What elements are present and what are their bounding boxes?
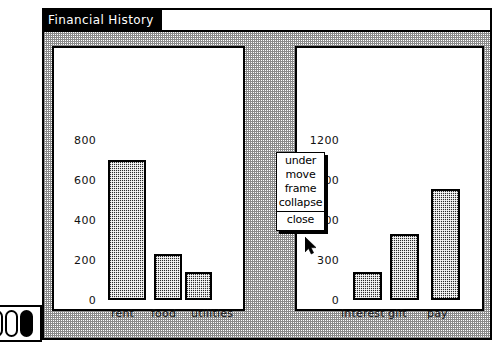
dock-pill-1[interactable] bbox=[0, 310, 3, 337]
mouse-cursor-arrow-icon bbox=[305, 237, 317, 255]
chart-panel-expenses[interactable]: 0200400600800rentfoodutilities bbox=[52, 46, 245, 311]
y-axis-tick-label: 200 bbox=[66, 254, 96, 267]
y-axis-tick-label: 800 bbox=[66, 134, 96, 147]
screen: Financial History 0200400600800rentfoodu… bbox=[0, 0, 500, 351]
taskbar-dock[interactable] bbox=[0, 305, 42, 342]
popup-menu-item-move[interactable]: move bbox=[277, 168, 324, 182]
popup-menu-item-collapse[interactable]: collapse bbox=[277, 196, 324, 210]
dock-pill-3[interactable] bbox=[20, 310, 33, 337]
y-axis-tick-label: 600 bbox=[66, 174, 96, 187]
bar-rent[interactable] bbox=[108, 160, 146, 300]
y-axis-tick-label: 300 bbox=[305, 254, 339, 267]
bar-utilities[interactable] bbox=[185, 272, 212, 300]
y-axis-tick-label: 1200 bbox=[305, 134, 339, 147]
bar-food[interactable] bbox=[154, 254, 182, 300]
financial-history-window: Financial History 0200400600800rentfoodu… bbox=[42, 8, 492, 340]
dock-pill-2[interactable] bbox=[5, 310, 18, 337]
popup-menu[interactable]: under move frame collapse close bbox=[276, 152, 325, 231]
popup-menu-separator bbox=[277, 211, 324, 212]
popup-menu-item-frame[interactable]: frame bbox=[277, 182, 324, 196]
window-title-tab[interactable]: Financial History bbox=[44, 10, 162, 30]
bar-gift[interactable] bbox=[390, 234, 419, 300]
window-body: 0200400600800rentfoodutilities 030060090… bbox=[44, 32, 490, 338]
popup-menu-item-under[interactable]: under bbox=[277, 154, 324, 168]
window-titlebar[interactable]: Financial History bbox=[44, 10, 490, 32]
bar-interest[interactable] bbox=[353, 272, 382, 300]
x-axis-label-pay: pay bbox=[427, 307, 448, 320]
bar-chart-expenses: 0200400600800rentfoodutilities bbox=[54, 48, 243, 309]
y-axis-tick-label: 400 bbox=[66, 214, 96, 227]
x-axis-label-gift: gift bbox=[388, 307, 407, 320]
y-axis-tick-label: 0 bbox=[66, 294, 96, 307]
popup-menu-item-close[interactable]: close bbox=[277, 213, 324, 227]
x-axis-label-utilities: utilities bbox=[191, 307, 233, 320]
x-axis-label-rent: rent bbox=[111, 307, 134, 320]
x-axis-label-food: food bbox=[151, 307, 176, 320]
x-axis-label-interest: interest bbox=[341, 307, 385, 320]
y-axis-tick-label: 0 bbox=[305, 294, 339, 307]
bar-pay[interactable] bbox=[431, 189, 460, 300]
